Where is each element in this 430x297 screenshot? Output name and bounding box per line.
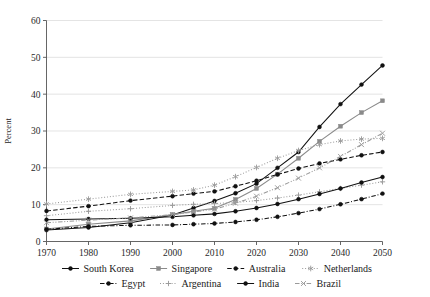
data-point <box>381 150 385 154</box>
data-point <box>171 223 175 227</box>
data-point <box>381 175 385 179</box>
legend-item-netherlands[interactable]: Netherlands <box>302 263 372 274</box>
legend-label: Egypt <box>122 278 146 289</box>
data-point <box>276 166 280 170</box>
data-point <box>128 206 133 211</box>
y-tick-label-30: 30 <box>31 126 41 136</box>
data-point <box>275 155 280 161</box>
legend-label: Brazil <box>317 278 342 289</box>
data-point <box>171 194 175 198</box>
data-point <box>254 198 259 203</box>
data-point <box>87 204 91 208</box>
data-point <box>276 215 280 219</box>
chart-legend: South KoreaSingaporeAustraliaNetherlands… <box>62 263 372 289</box>
data-point <box>381 99 385 103</box>
data-point <box>380 131 385 136</box>
data-point <box>192 222 196 226</box>
legend-item-india[interactable]: India <box>237 278 280 289</box>
data-point <box>255 179 259 183</box>
y-tick-label-60: 60 <box>31 16 41 26</box>
data-point <box>170 203 175 208</box>
data-point <box>318 207 322 211</box>
x-tick-label-2000: 2000 <box>163 248 182 258</box>
data-point <box>339 124 343 128</box>
data-point <box>275 185 280 190</box>
data-point <box>318 161 322 165</box>
y-tick-labels: 0102030405060 <box>31 16 41 247</box>
data-point <box>318 192 322 196</box>
data-point <box>254 165 259 171</box>
y-tick-label-20: 20 <box>31 163 41 173</box>
y-tick-label-0: 0 <box>36 237 41 247</box>
series-egypt <box>45 192 385 232</box>
data-point <box>339 202 343 206</box>
data-point <box>276 173 280 177</box>
legend-item-south-korea[interactable]: South Korea <box>62 263 134 274</box>
legend-swatch-marker <box>157 267 161 271</box>
chart-canvas: 0102030405060 19701980199020002010202020… <box>0 0 430 297</box>
x-tick-label-1980: 1980 <box>79 248 98 258</box>
series-brazil <box>44 131 385 225</box>
legend-label: South Korea <box>84 263 135 274</box>
data-point <box>360 153 364 157</box>
legend-item-singapore[interactable]: Singapore <box>150 263 213 274</box>
legend-swatch-marker <box>234 267 238 271</box>
data-point <box>45 209 49 213</box>
legend-label: Australia <box>249 263 286 274</box>
x-tick-label-2010: 2010 <box>205 248 224 258</box>
data-point <box>318 125 322 129</box>
data-point <box>381 192 385 196</box>
data-point <box>339 102 343 106</box>
data-point <box>297 156 301 160</box>
data-point <box>234 184 238 188</box>
data-point <box>233 174 238 180</box>
data-point <box>297 211 301 215</box>
data-point <box>234 209 238 213</box>
data-point <box>275 195 280 200</box>
data-point <box>87 224 91 228</box>
legend-item-brazil[interactable]: Brazil <box>295 278 341 289</box>
data-point <box>360 83 364 87</box>
x-tick-label-1990: 1990 <box>121 248 140 258</box>
data-point <box>380 179 385 184</box>
data-point <box>129 223 133 227</box>
data-point <box>380 136 385 142</box>
data-point <box>45 227 49 231</box>
y-tick-label-10: 10 <box>31 200 41 210</box>
data-point <box>212 182 217 188</box>
y-axis-title: Percent <box>3 118 13 144</box>
legend-label: Singapore <box>172 263 213 274</box>
legend-label: Netherlands <box>324 263 372 274</box>
x-tick-label-2040: 2040 <box>331 248 350 258</box>
data-point <box>86 209 91 214</box>
data-point <box>297 197 301 201</box>
data-point <box>234 220 238 224</box>
data-point <box>339 187 343 191</box>
x-tick-label-2020: 2020 <box>247 248 266 258</box>
data-point <box>254 194 259 199</box>
data-point <box>297 167 301 171</box>
legend-swatch-marker <box>166 281 171 286</box>
series-netherlands <box>44 136 385 207</box>
x-tick-labels: 197019801990200020102020203020402050 <box>37 248 392 258</box>
series-line <box>47 138 383 204</box>
data-point <box>213 189 217 193</box>
data-point <box>255 206 259 210</box>
legend-item-argentina[interactable]: Argentina <box>160 278 222 289</box>
data-point <box>296 176 301 181</box>
x-tick-label-2030: 2030 <box>289 248 308 258</box>
data-point <box>360 111 364 115</box>
data-point <box>128 192 133 198</box>
data-point <box>191 202 196 207</box>
legend-item-australia[interactable]: Australia <box>227 263 286 274</box>
legend-item-egypt[interactable]: Egypt <box>100 278 146 289</box>
data-point <box>213 222 217 226</box>
data-point <box>255 218 259 222</box>
data-point <box>381 63 385 67</box>
data-point <box>359 142 364 147</box>
data-point <box>234 191 238 195</box>
y-axis-label: Percent <box>3 118 13 144</box>
y-tick-label-40: 40 <box>31 90 41 100</box>
series-singapore <box>45 99 385 231</box>
data-point <box>44 201 49 207</box>
